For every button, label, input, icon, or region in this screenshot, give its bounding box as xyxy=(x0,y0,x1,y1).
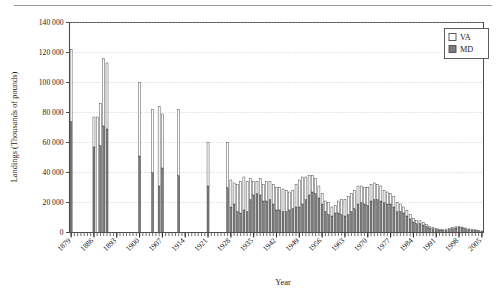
bar-segment-md xyxy=(302,204,304,233)
bar-segment-md xyxy=(455,228,457,233)
bar-segment-va xyxy=(438,229,440,230)
bar-segment-va xyxy=(406,211,408,216)
bar-segment-va xyxy=(275,188,277,211)
y-tick-label: 0 xyxy=(60,228,64,237)
bar-segment-va xyxy=(331,207,333,216)
bar-segment-md xyxy=(373,200,375,233)
bar-segment-va xyxy=(262,185,264,202)
bar-segment-va xyxy=(106,63,108,129)
x-tick-label: 1942 xyxy=(261,236,278,253)
bar-segment-va xyxy=(448,228,450,229)
bar-segment-va xyxy=(341,200,343,215)
bar-segment-md xyxy=(269,200,271,233)
bar-segment-md xyxy=(256,194,258,233)
bar-segment-va xyxy=(435,228,437,229)
bar-segment-va xyxy=(452,227,454,228)
bar-segment-va xyxy=(455,227,457,228)
bar-segment-md xyxy=(70,122,72,233)
x-tick-label: 1977 xyxy=(375,236,392,253)
bar-segment-va xyxy=(295,185,297,208)
y-tick-label: 40 000 xyxy=(43,168,64,177)
bar-segment-va xyxy=(461,227,463,228)
bar-segment-va xyxy=(328,203,330,215)
bar-segment-va xyxy=(432,228,434,229)
bar-segment-va xyxy=(337,201,339,213)
legend-swatch-md xyxy=(449,46,456,53)
bar-segment-va xyxy=(259,179,261,196)
bar-segment-va xyxy=(249,179,251,200)
x-tick-label: 1956 xyxy=(306,236,323,253)
y-tick-label: 120 000 xyxy=(39,48,64,57)
bar-segment-va xyxy=(207,143,209,187)
bar-segment-va xyxy=(96,117,98,233)
bar-segment-md xyxy=(103,126,105,233)
bar-segment-md xyxy=(99,146,101,233)
bar-segment-va xyxy=(256,182,258,194)
x-tick-label: 1935 xyxy=(238,236,255,253)
bar-segment-md xyxy=(152,173,154,233)
bar-segment-va xyxy=(321,194,323,205)
x-axis-tick-labels: 1879188618931900190719141921192819351942… xyxy=(55,236,483,253)
landings-stacked-bar-chart: 1879188618931900190719141921192819351942… xyxy=(0,0,504,299)
bar-segment-md xyxy=(360,203,362,233)
bar-segment-va xyxy=(429,227,431,229)
bar-segment-md xyxy=(272,204,274,233)
x-tick-label: 1998 xyxy=(443,236,460,253)
bar-segment-md xyxy=(383,203,385,233)
bar-segment-md xyxy=(106,129,108,233)
bar-segment-va xyxy=(298,180,300,207)
bar-segment-md xyxy=(249,200,251,233)
x-tick-label: 2005 xyxy=(466,236,483,253)
bar-segment-md xyxy=(344,216,346,233)
bar-segment-md xyxy=(422,225,424,233)
bar-segment-md xyxy=(357,204,359,233)
bar-segment-md xyxy=(262,201,264,233)
bar-segment-va xyxy=(357,186,359,204)
bar-segment-va xyxy=(403,207,405,213)
bar-segment-va xyxy=(253,182,255,196)
bar-segment-md xyxy=(465,229,467,233)
bar-segment-md xyxy=(279,210,281,233)
bar-segment-va xyxy=(282,189,284,212)
x-tick-label: 1921 xyxy=(192,236,209,253)
bar-segment-va xyxy=(266,182,268,202)
bar-segment-md xyxy=(93,147,95,233)
bar-segment-va xyxy=(139,83,141,157)
bar-segment-md xyxy=(364,204,366,233)
bar-segment-va xyxy=(272,185,274,205)
bar-segment-va xyxy=(364,188,366,205)
bar-segment-va xyxy=(93,117,95,147)
bar-segment-md xyxy=(432,229,434,233)
bar-segment-md xyxy=(396,212,398,233)
bar-segment-va xyxy=(305,177,307,200)
x-tick-label: 1900 xyxy=(124,236,141,253)
bar-segment-va xyxy=(386,192,388,204)
bar-segment-va xyxy=(380,186,382,201)
bar-segment-md xyxy=(386,204,388,233)
bar-segment-md xyxy=(452,229,454,233)
bar-segment-va xyxy=(230,180,232,207)
chart-figure: 1879188618931900190719141921192819351942… xyxy=(0,0,504,299)
bar-segment-md xyxy=(253,195,255,233)
y-tick-label: 80 000 xyxy=(43,108,64,117)
bar-segment-md xyxy=(292,209,294,233)
bar-segment-md xyxy=(161,168,163,233)
bar-segment-md xyxy=(412,222,414,233)
bar-segment-md xyxy=(367,206,369,233)
bar-segment-md xyxy=(158,186,160,233)
bar-segment-va xyxy=(227,143,229,188)
bar-segment-va xyxy=(324,201,326,212)
bar-segment-va xyxy=(152,110,154,173)
bar-segment-md xyxy=(429,228,431,233)
bar-segment-va xyxy=(422,223,424,225)
x-tick-label: 1928 xyxy=(215,236,232,253)
bar-segment-md xyxy=(308,195,310,233)
bar-segment-va xyxy=(396,203,398,212)
x-axis-title: Year xyxy=(275,278,291,287)
bar-segment-va xyxy=(99,104,101,146)
bar-segment-va xyxy=(70,50,72,122)
bar-segment-va xyxy=(236,185,238,212)
bar-segment-md xyxy=(282,212,284,233)
bar-segment-md xyxy=(207,186,209,233)
bar-segment-md xyxy=(178,176,180,233)
